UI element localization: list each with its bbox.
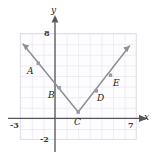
- point-B-marker: [58, 86, 61, 89]
- point-A-marker: [37, 62, 40, 65]
- point-label-D: D: [97, 94, 104, 103]
- x-tick-label-minus-3: -3: [10, 121, 19, 129]
- point-C-marker: [77, 110, 80, 113]
- x-axis-label: x: [144, 113, 149, 122]
- point-label-C: C: [74, 118, 81, 127]
- y-tick-label-8: 8: [44, 29, 50, 37]
- graph-figure: x y 8 -3 7 -2 A B C D E: [0, 0, 155, 158]
- point-E-marker: [109, 74, 112, 77]
- coordinate-plane-svg: [0, 0, 155, 158]
- point-label-A: A: [27, 67, 34, 76]
- y-tick-label-minus-2: -2: [40, 135, 49, 143]
- point-label-E: E: [113, 79, 120, 88]
- y-axis-label: y: [51, 6, 56, 15]
- point-label-B: B: [48, 91, 55, 100]
- x-tick-label-7: 7: [128, 121, 134, 129]
